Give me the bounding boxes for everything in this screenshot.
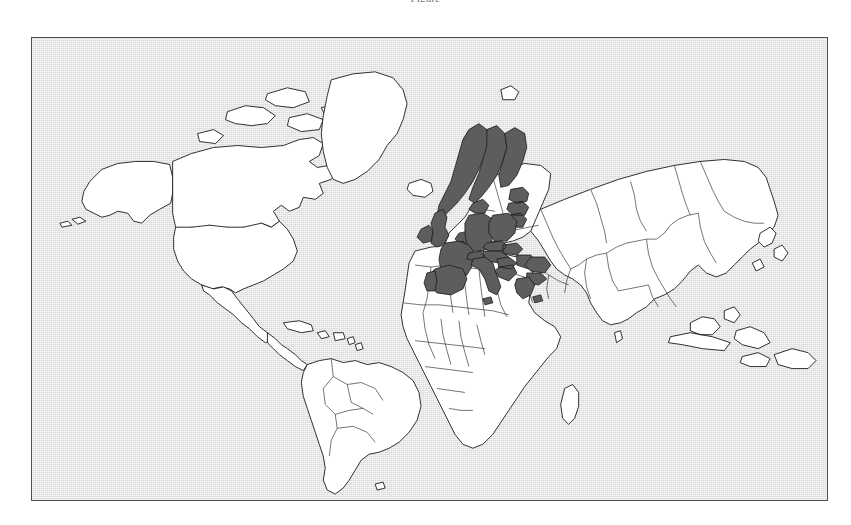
figure-caption-fragment: Figure	[0, 0, 851, 2]
country-alaska	[82, 161, 173, 223]
svalbard	[501, 86, 519, 100]
south-america-mainland	[301, 359, 421, 494]
falkland-islands	[375, 482, 385, 490]
sri-lanka	[615, 331, 623, 343]
iceland	[407, 179, 433, 197]
region-south-america	[301, 359, 421, 494]
greenland	[321, 72, 407, 184]
country-united-states	[174, 221, 298, 293]
world-map-svg	[32, 38, 827, 500]
indonesia-philippines	[668, 307, 770, 367]
region-central-america	[267, 333, 307, 371]
country-mexico	[202, 285, 272, 343]
region-north-america	[60, 72, 407, 371]
madagascar	[561, 385, 579, 425]
world-map-figure	[31, 37, 828, 501]
region-asia	[521, 159, 816, 368]
asia-mainland	[521, 159, 778, 324]
new-guinea	[774, 349, 816, 369]
country-canada	[173, 138, 338, 234]
region-caribbean	[283, 321, 363, 351]
country-ireland	[417, 225, 433, 243]
aleutian-islands	[60, 217, 86, 227]
